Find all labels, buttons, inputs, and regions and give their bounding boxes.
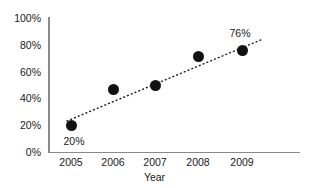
y-tick-label-40: 40% xyxy=(1,93,41,104)
y-axis-line xyxy=(48,17,50,153)
y-tick-label-100: 100% xyxy=(1,13,41,24)
data-point xyxy=(237,45,248,56)
data-point xyxy=(193,51,204,62)
x-tick-label-2007: 2007 xyxy=(132,157,178,168)
x-tick-label-2008: 2008 xyxy=(175,157,221,168)
data-label-first: 20% xyxy=(63,136,84,147)
x-tick-label-2009: 2009 xyxy=(219,157,265,168)
y-tick-label-0: 0% xyxy=(1,147,41,158)
data-point xyxy=(108,84,119,95)
x-axis-line xyxy=(48,152,300,154)
data-point xyxy=(150,80,161,91)
x-tick-label-2006: 2006 xyxy=(90,157,136,168)
y-tick-label-20: 20% xyxy=(1,120,41,131)
x-tick-label-2005: 2005 xyxy=(48,157,94,168)
data-label-last: 76% xyxy=(229,28,250,39)
y-tick-label-80: 80% xyxy=(1,40,41,51)
data-point xyxy=(66,120,77,131)
x-axis-title: Year xyxy=(0,172,309,183)
y-tick-label-60: 60% xyxy=(1,66,41,77)
scatter-chart: 100% 80% 60% 40% 20% 0% 2005 2006 2007 2… xyxy=(0,0,309,188)
